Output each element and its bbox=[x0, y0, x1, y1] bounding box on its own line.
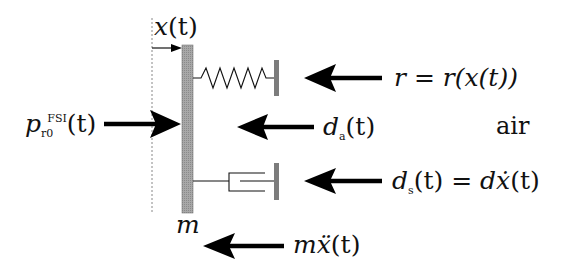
mass-spring-damper-diagram: x(t) pr0FSI(t) r = r(x(t)) da(t) air ds(… bbox=[0, 0, 569, 279]
air-damping-label: da(t) bbox=[323, 114, 375, 139]
spring-force-arrow bbox=[304, 64, 382, 92]
spring bbox=[193, 68, 275, 88]
spring-force-label: r = r(x(t)) bbox=[394, 65, 518, 90]
medium-label: air bbox=[496, 114, 529, 138]
spring-wall bbox=[274, 60, 279, 96]
diagram-canvas bbox=[0, 0, 569, 279]
mass-label: m bbox=[176, 212, 200, 237]
damper-wall bbox=[274, 163, 279, 200]
displacement-symbol: x bbox=[154, 12, 168, 41]
air-damping-force-arrow bbox=[237, 114, 314, 140]
pressure-label: pr0FSI(t) bbox=[25, 111, 96, 136]
damper bbox=[193, 173, 275, 191]
displacement-arrow bbox=[152, 44, 182, 52]
structural-damping-label: ds(t) = dẋ(t) bbox=[392, 168, 540, 193]
inertia-force-arrow bbox=[203, 233, 284, 259]
inertia-label: mẍ(t) bbox=[293, 232, 360, 257]
displacement-label: x(t) bbox=[154, 14, 198, 39]
structural-damping-force-arrow bbox=[304, 168, 382, 194]
pressure-force-arrow bbox=[104, 110, 181, 138]
mass-plate bbox=[182, 45, 193, 213]
pressure-symbol: p bbox=[25, 109, 41, 138]
